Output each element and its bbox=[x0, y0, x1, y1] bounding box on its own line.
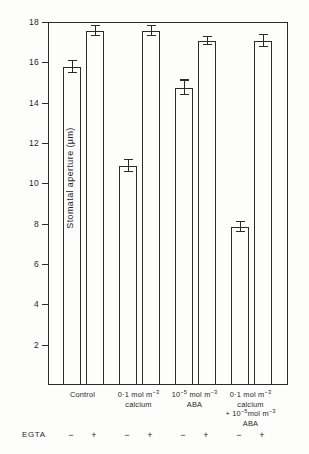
y-tick-label-8: 8 bbox=[15, 219, 39, 229]
y-tick-4 bbox=[42, 304, 48, 305]
x-group-label-line: ABA bbox=[215, 419, 287, 429]
bar-calcium-plus-egta bbox=[142, 31, 160, 384]
error-cap-upper-control-minus-egta bbox=[68, 60, 77, 61]
y-tick-12 bbox=[42, 143, 48, 144]
y-tick-14 bbox=[42, 103, 48, 104]
egta-row-label: EGTA bbox=[22, 430, 46, 439]
y-tick-label-16: 16 bbox=[15, 57, 39, 67]
egta-row: EGTA −+−+−+−+ bbox=[0, 430, 309, 444]
error-cap-lower-aba-plus-egta bbox=[203, 44, 212, 45]
y-tick-label-14: 14 bbox=[15, 98, 39, 108]
error-cap-upper-calcium-aba-plus-egta bbox=[259, 34, 268, 35]
y-tick-label-2: 2 bbox=[15, 340, 39, 350]
egta-sign-calcium-aba-minus-egta: − bbox=[233, 430, 245, 440]
error-cap-upper-control-plus-egta bbox=[91, 25, 100, 26]
bar-aba-minus-egta bbox=[175, 88, 193, 384]
y-tick-2 bbox=[42, 345, 48, 346]
egta-sign-calcium-plus-egta: + bbox=[144, 430, 156, 440]
y-tick-16 bbox=[42, 62, 48, 63]
plot-area: Stomatal aperture (µm) bbox=[48, 22, 288, 385]
error-cap-lower-control-plus-egta bbox=[91, 35, 100, 36]
x-group-label-line: 0·1 mol m−3 bbox=[215, 390, 287, 400]
bar-calcium-aba-plus-egta bbox=[254, 41, 272, 384]
x-group-label-line: calcium bbox=[215, 400, 287, 410]
error-cap-lower-control-minus-egta bbox=[68, 72, 77, 73]
egta-sign-aba-minus-egta: − bbox=[177, 430, 189, 440]
figure-canvas: Stomatal aperture (µm) EGTA −+−+−+−+ 181… bbox=[0, 0, 309, 454]
egta-sign-calcium-minus-egta: − bbox=[121, 430, 133, 440]
error-bar-aba-minus-egta bbox=[184, 81, 185, 95]
y-tick-8 bbox=[42, 224, 48, 225]
bar-aba-plus-egta bbox=[198, 41, 216, 384]
error-cap-upper-calcium-minus-egta bbox=[124, 159, 133, 160]
error-cap-upper-aba-plus-egta bbox=[203, 36, 212, 37]
y-tick-10 bbox=[42, 183, 48, 184]
y-tick-label-6: 6 bbox=[15, 259, 39, 269]
egta-sign-calcium-aba-plus-egta: + bbox=[256, 430, 268, 440]
y-tick-6 bbox=[42, 264, 48, 265]
bar-control-plus-egta bbox=[86, 31, 104, 384]
error-cap-lower-calcium-aba-plus-egta bbox=[259, 46, 268, 47]
bar-calcium-aba-minus-egta bbox=[231, 227, 249, 384]
error-cap-lower-calcium-plus-egta bbox=[147, 35, 156, 36]
egta-sign-control-minus-egta: − bbox=[65, 430, 77, 440]
y-tick-18 bbox=[42, 22, 48, 23]
egta-sign-aba-plus-egta: + bbox=[200, 430, 212, 440]
error-cap-lower-calcium-aba-minus-egta bbox=[236, 231, 245, 232]
x-group-label-calcium-plus-aba: 0·1 mol m−3calcium+ 10−5mol m−3ABA bbox=[215, 390, 287, 428]
error-cap-upper-aba-minus-egta bbox=[180, 79, 189, 80]
error-cap-upper-calcium-plus-egta bbox=[147, 25, 156, 26]
error-cap-lower-aba-minus-egta bbox=[180, 94, 189, 95]
egta-sign-control-plus-egta: + bbox=[88, 430, 100, 440]
bar-calcium-minus-egta bbox=[119, 166, 137, 384]
y-tick-label-18: 18 bbox=[15, 17, 39, 27]
x-group-label-line: + 10−5mol m−3 bbox=[215, 409, 287, 419]
y-tick-label-4: 4 bbox=[15, 299, 39, 309]
y-tick-label-10: 10 bbox=[15, 178, 39, 188]
bar-control-minus-egta bbox=[63, 67, 81, 384]
error-cap-lower-calcium-minus-egta bbox=[124, 171, 133, 172]
error-cap-upper-calcium-aba-minus-egta bbox=[236, 221, 245, 222]
y-tick-label-12: 12 bbox=[15, 138, 39, 148]
